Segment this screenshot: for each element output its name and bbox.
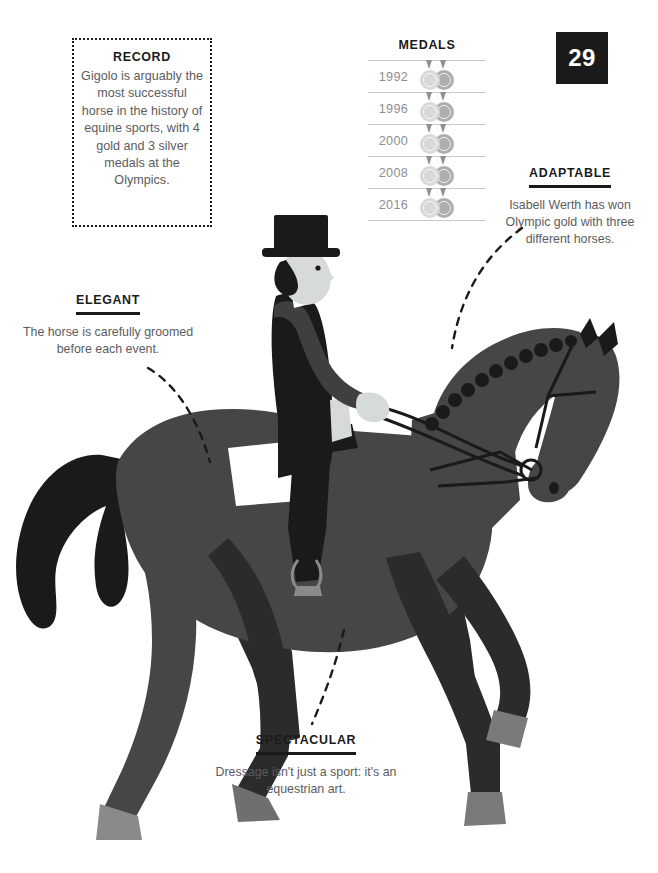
medal-pair [416,157,474,188]
gold-medal-icon [420,166,440,186]
callout-elegant-heading: ELEGANT [76,293,140,315]
medal-ribbon-icon [440,156,447,166]
rider-hand [356,392,389,422]
medal-pair [416,125,474,156]
horse-tail-shape [16,455,128,629]
callout-elegant-body: The horse is carefully groomed before ea… [18,324,198,358]
medal-ribbon-icon [440,60,447,70]
medal-row: 2008 [368,156,486,188]
medal-ribbon-icon [426,156,433,166]
gold-medal-icon [420,70,440,90]
horse-nostril [549,482,559,494]
gold-medal-icon [420,198,440,218]
medals-panel: MEDALS 1992 1996 [368,38,486,221]
medal-ribbon-icon [440,92,447,102]
medal-year: 2016 [368,198,416,212]
infographic-page: RECORD Gigolo is arguably the most succe… [0,0,658,873]
callout-adaptable-body: Isabell Werth has won Olympic gold with … [494,197,646,249]
medal-year: 1996 [368,102,416,116]
medal-ribbon-icon [426,124,433,134]
medal-ribbon-icon [426,188,433,198]
callout-spectacular: SPECTACULAR Dressage isn't just a sport:… [208,730,404,798]
medal-pair [416,61,474,92]
callout-spectacular-heading: SPECTACULAR [256,733,356,755]
callout-elegant: ELEGANT The horse is carefully groomed b… [18,290,198,358]
page-number-badge: 29 [556,32,608,84]
record-card: RECORD Gigolo is arguably the most succe… [72,38,212,227]
medals-title: MEDALS [368,38,486,52]
medal-pair [416,189,474,220]
callout-adaptable: ADAPTABLE Isabell Werth has won Olympic … [494,163,646,249]
medal-ribbon-icon [426,60,433,70]
medal-year: 2008 [368,166,416,180]
medal-year: 1992 [368,70,416,84]
medal-pair [416,93,474,124]
record-card-body: Gigolo is arguably the most successful h… [74,68,210,190]
rider-top-hat [262,215,340,257]
medals-rows: 1992 1996 2000 [368,60,486,221]
record-card-heading: RECORD [113,50,171,64]
gold-medal-icon [420,134,440,154]
callout-spectacular-body: Dressage isn't just a sport: it's an equ… [208,764,404,798]
medal-ribbon-icon [426,92,433,102]
medal-year: 2000 [368,134,416,148]
medal-row: 2016 [368,188,486,220]
medal-row: 1992 [368,60,486,92]
medal-row: 2000 [368,124,486,156]
rider-eye [315,265,320,270]
medal-ribbon-icon [440,124,447,134]
callout-adaptable-heading: ADAPTABLE [529,166,611,188]
medal-row: 1996 [368,92,486,124]
gold-medal-icon [420,102,440,122]
medal-ribbon-icon [440,188,447,198]
horse-front-hoof-near [464,792,506,826]
